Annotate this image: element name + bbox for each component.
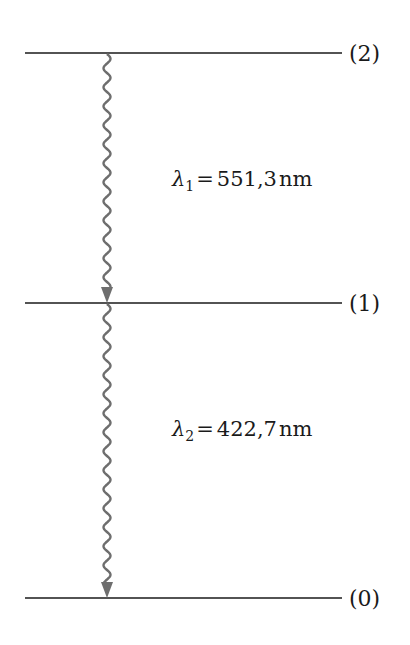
subscript: 2 — [185, 428, 194, 444]
arrowhead-icon — [101, 287, 113, 303]
subscript: 1 — [185, 178, 194, 194]
equals-sign: = — [196, 167, 214, 191]
photon-arrow-2-to-1 — [104, 54, 111, 288]
level-2-label: (2) — [349, 41, 380, 66]
lambda-symbol: λ — [171, 417, 185, 441]
photon-arrow-1-to-0 — [104, 304, 111, 583]
energy-level-diagram: (2) (1) (0) λ1=551,3nm λ2=422,7nm — [0, 0, 410, 645]
wavelength-2-label: λ2=422,7nm — [171, 417, 312, 444]
lambda-symbol: λ — [171, 167, 185, 191]
equals-sign: = — [196, 417, 214, 441]
wavelength-unit: nm — [279, 417, 313, 441]
wavelength-1-label: λ1=551,3nm — [171, 167, 312, 194]
level-1-label: (1) — [349, 291, 380, 316]
level-0-label: (0) — [349, 586, 380, 611]
wavelength-unit: nm — [279, 167, 313, 191]
arrowhead-icon — [101, 582, 113, 598]
wavelength-value: 551,3 — [217, 167, 277, 191]
wavelength-value: 422,7 — [217, 417, 277, 441]
